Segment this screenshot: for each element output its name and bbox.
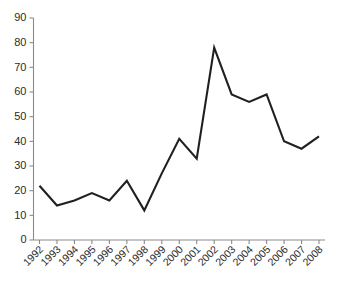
y-tick-label: 60 [14, 85, 26, 97]
x-tick-label: 2008 [300, 243, 325, 268]
y-tick-label: 50 [14, 110, 26, 122]
y-tick-label: 90 [14, 11, 26, 23]
y-tick-label: 0 [20, 233, 26, 245]
y-axis-ticks: 0102030405060708090 [14, 11, 33, 245]
chart-canvas: 0102030405060708090199219931994199519961… [0, 0, 337, 284]
y-tick-label: 40 [14, 135, 26, 147]
y-tick-label: 70 [14, 61, 26, 73]
y-tick-label: 80 [14, 36, 26, 48]
y-tick-label: 10 [14, 209, 26, 221]
x-axis-ticks: 1992199319941995199619971998199920002001… [20, 240, 325, 268]
y-tick-label: 30 [14, 159, 26, 171]
y-tick-label: 20 [14, 184, 26, 196]
data-series-line [40, 48, 320, 211]
line-chart: 0102030405060708090199219931994199519961… [0, 0, 337, 284]
